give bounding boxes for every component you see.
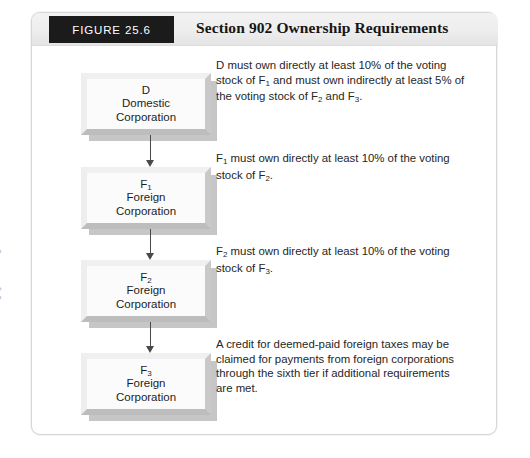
node-box: D Domestic Corporation [81,73,211,135]
arrow-head-icon [146,160,154,167]
node-label-line3: Corporation [116,298,176,312]
note-domestic: D must own directly at least 10% of the … [216,58,468,106]
arrow-head-icon [146,253,154,260]
arrow-f2-to-f3 [146,322,155,353]
copyright-credit: © Cengage Learning 2014 [0,212,1,322]
arrow-stem [150,135,151,160]
node-label-id: D [142,84,150,98]
node-label-line2: Foreign [127,284,166,298]
arrow-stem [150,229,151,253]
note-credit-sixth-tier: A credit for deemed-paid foreign taxes m… [216,337,468,395]
node-domestic-corporation: D Domestic Corporation [81,73,211,135]
node-box: F2 Foreign Corporation [81,260,211,322]
arrow-domestic-to-f1 [146,135,155,167]
node-label-line3: Corporation [116,205,176,219]
arrow-f1-to-f2 [146,229,155,260]
node-box: F1 Foreign Corporation [81,167,211,229]
node-foreign-corporation-1: F1 Foreign Corporation [81,167,211,229]
node-label-id: F3 [140,364,151,378]
node-label-line3: Corporation [116,391,176,405]
node-label-line2: Domestic [122,97,170,111]
node-box: F3 Foreign Corporation [81,353,211,415]
figure-number-tab: FIGURE 25.6 [49,16,174,43]
node-label-line2: Foreign [127,377,166,391]
arrow-stem [150,322,151,346]
note-foreign-corporation-1: F1 must own directly at least 10% of the… [216,151,468,184]
figure-title: Section 902 Ownership Requirements [196,19,448,37]
note-foreign-corporation-2: F2 must own directly at least 10% of the… [216,244,468,277]
figure-frame: FIGURE 25.6 Section 902 Ownership Requir… [31,12,497,435]
arrow-head-icon [146,346,154,353]
node-label-id: F1 [140,178,151,192]
node-label-line2: Foreign [127,191,166,205]
node-foreign-corporation-2: F2 Foreign Corporation [81,260,211,322]
node-label-id: F2 [140,271,151,285]
figure-header-band: FIGURE 25.6 Section 902 Ownership Requir… [32,13,498,46]
figure-number-label: FIGURE 25.6 [72,24,150,36]
ownership-diagram: D Domestic Corporation F1 Foreign Corpor… [32,46,498,435]
node-label-line3: Corporation [116,111,176,125]
node-foreign-corporation-3: F3 Foreign Corporation [81,353,211,415]
